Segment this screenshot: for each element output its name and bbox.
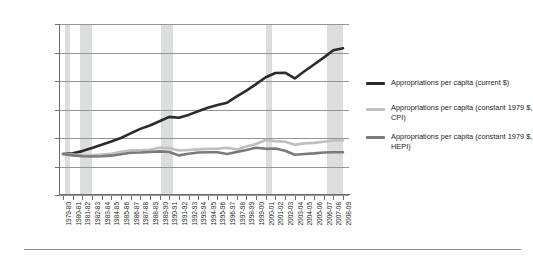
chart-figure: $0.00$10.00$20.00$30.00$40.00$50.00$60.0… (0, 0, 533, 257)
x-tick-mark (121, 196, 122, 200)
x-tick-label: 1990-91 (172, 202, 179, 226)
x-tick-mark (208, 196, 209, 200)
y-axis (59, 24, 60, 195)
x-tick-label: 1981-82 (85, 202, 92, 226)
x-tick-mark (92, 196, 93, 200)
x-tick-label: 1998-99 (249, 202, 256, 226)
x-tick-mark (179, 196, 180, 200)
x-tick-label: 2005-06 (317, 202, 324, 226)
x-tick-mark (295, 196, 296, 200)
x-tick-mark (160, 196, 161, 200)
legend-label: Appropriations per capita (current $) (391, 78, 533, 88)
x-tick-mark (102, 196, 103, 200)
x-tick-mark (237, 196, 238, 200)
x-tick-mark (343, 196, 344, 200)
x-tick-mark (324, 196, 325, 200)
legend-color-swatch (366, 108, 385, 111)
y-axis-labels: $0.00$10.00$20.00$30.00$40.00$50.00$60.0… (0, 0, 56, 257)
x-tick-mark (285, 196, 286, 200)
x-tick-label: 1984-85 (114, 202, 121, 226)
x-tick-mark (140, 196, 141, 200)
x-tick-mark (131, 196, 132, 200)
x-tick-mark (314, 196, 315, 200)
x-tick-mark (189, 196, 190, 200)
plot-area (59, 24, 349, 195)
x-tick-label: 1982-83 (95, 202, 102, 226)
x-tick-label: 1980-81 (76, 202, 83, 226)
x-tick-label: 2006-07 (327, 202, 334, 226)
series-line (63, 48, 343, 154)
x-tick-label: 1991-92 (182, 202, 189, 226)
legend-label: Appropriations per capita (constant 1979… (391, 132, 533, 152)
x-tick-mark (217, 196, 218, 200)
x-tick-label: 1995-96 (220, 202, 227, 226)
x-tick-mark (111, 196, 112, 200)
x-tick-label: 1979-80 (66, 202, 73, 226)
x-tick-mark (266, 196, 267, 200)
x-tick-label: 1994-95 (211, 202, 218, 226)
chart-legend: Appropriations per capita (current $)App… (366, 78, 533, 161)
x-tick-mark (256, 196, 257, 200)
x-tick-label: 2008-09 (346, 202, 353, 226)
x-tick-label: 1988-89 (153, 202, 160, 226)
legend-item[interactable]: Appropriations per capita (constant 1979… (366, 103, 533, 123)
legend-color-swatch (366, 136, 385, 139)
x-tick-label: 2002-03 (288, 202, 295, 226)
x-tick-mark (169, 196, 170, 200)
footer-divider (24, 249, 521, 250)
x-tick-label: 1989-90 (163, 202, 170, 226)
x-tick-label: 1993-94 (201, 202, 208, 226)
x-tick-label: 2001-02 (278, 202, 285, 226)
x-tick-mark (73, 196, 74, 200)
x-tick-label: 2003-04 (298, 202, 305, 226)
x-tick-label: 1986-87 (134, 202, 141, 226)
x-tick-label: 1992-93 (192, 202, 199, 226)
x-tick-label: 1996-97 (230, 202, 237, 226)
x-tick-label: 1999-00 (259, 202, 266, 226)
legend-item[interactable]: Appropriations per capita (current $) (366, 78, 533, 94)
x-tick-mark (333, 196, 334, 200)
x-axis (59, 194, 350, 195)
legend-label: Appropriations per capita (constant 1979… (391, 103, 533, 123)
x-tick-mark (304, 196, 305, 200)
x-tick-mark (150, 196, 151, 200)
legend-color-swatch (366, 82, 385, 85)
x-axis-labels: 1979-801980-811981-821982-831983-841984-… (59, 196, 354, 256)
x-tick-mark (246, 196, 247, 200)
x-tick-label: 1987-88 (143, 202, 150, 226)
series-lines (59, 24, 349, 195)
legend-item[interactable]: Appropriations per capita (constant 1979… (366, 132, 533, 152)
x-tick-label: 2007-08 (336, 202, 343, 226)
x-tick-label: 1997-98 (240, 202, 247, 226)
x-tick-mark (82, 196, 83, 200)
x-tick-mark (275, 196, 276, 200)
x-tick-label: 1983-84 (105, 202, 112, 226)
x-tick-label: 1985-86 (124, 202, 131, 226)
x-tick-label: 2000-01 (269, 202, 276, 226)
x-tick-mark (63, 196, 64, 200)
x-tick-mark (198, 196, 199, 200)
x-tick-mark (227, 196, 228, 200)
x-tick-label: 2004-05 (307, 202, 314, 226)
